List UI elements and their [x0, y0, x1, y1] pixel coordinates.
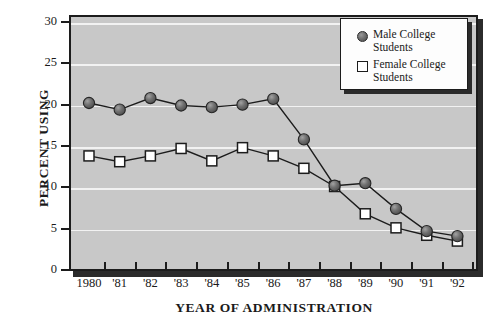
- legend-item-female: Female College Students: [351, 58, 459, 84]
- legend-item-label: Female College Students: [373, 58, 459, 84]
- x-axis-tick: [196, 262, 198, 270]
- x-axis-tick: [319, 262, 321, 270]
- y-axis-tick-label: 15: [17, 138, 57, 153]
- y-axis-tick-label: 25: [17, 55, 57, 70]
- chart-legend: Male College Students Female College Stu…: [340, 18, 468, 90]
- y-axis-tick: [61, 104, 70, 106]
- y-axis-tick: [61, 62, 70, 64]
- legend-item-male: Male College Students: [351, 28, 459, 54]
- y-axis-tick-label: 20: [17, 97, 57, 112]
- y-axis-tick-label: 0: [17, 262, 57, 277]
- y-axis-tick: [61, 186, 70, 188]
- y-axis-tick-label: 30: [17, 14, 57, 29]
- y-axis-tick-label: 10: [17, 179, 57, 194]
- x-axis-tick: [227, 262, 229, 270]
- x-axis-tick: [350, 262, 352, 270]
- x-axis-tick: [380, 262, 382, 270]
- y-axis-tick: [61, 269, 70, 271]
- x-axis-tick: [135, 262, 137, 270]
- gridline: [71, 188, 476, 190]
- x-axis-tick: [472, 262, 474, 270]
- legend-item-label: Male College Students: [373, 28, 459, 54]
- gridline: [71, 106, 476, 108]
- x-axis-tick: [411, 262, 413, 270]
- x-axis-tick-label: '92: [435, 276, 479, 291]
- y-axis-tick: [61, 145, 70, 147]
- gridline: [71, 230, 476, 232]
- open-square-icon: [351, 58, 373, 74]
- y-axis-tick: [61, 21, 70, 23]
- x-axis-tick: [442, 262, 444, 270]
- x-axis-tick: [165, 262, 167, 270]
- filled-circle-icon: [351, 28, 373, 44]
- x-axis-tick: [258, 262, 260, 270]
- gridline: [71, 147, 476, 149]
- x-axis-tick: [104, 262, 106, 270]
- x-axis-title: YEAR OF ADMINISTRATION: [68, 300, 480, 316]
- y-axis-tick-label: 5: [17, 221, 57, 236]
- chart-figure: PERCENT USING 051015202530 1980'81'82'83…: [0, 0, 496, 325]
- x-axis-tick: [288, 262, 290, 270]
- y-axis-tick: [61, 228, 70, 230]
